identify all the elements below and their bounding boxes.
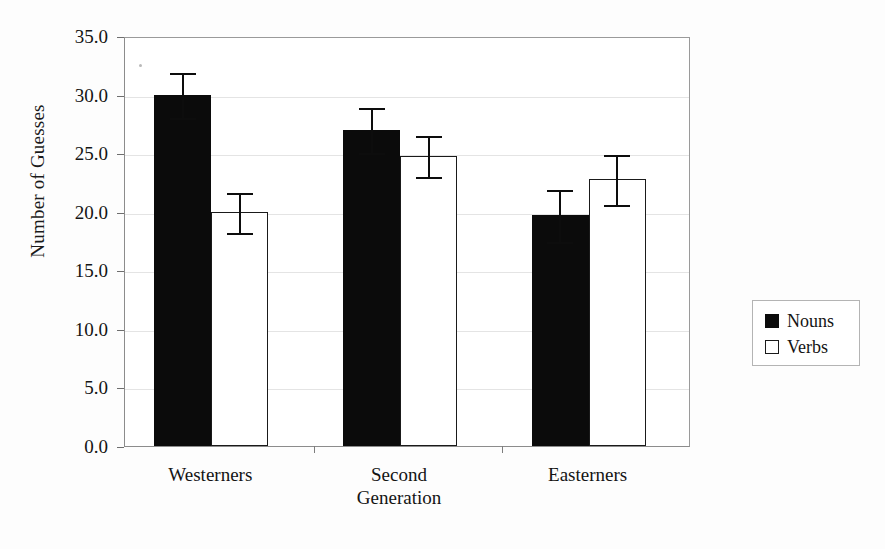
- x-axis-label-1: SecondGeneration: [299, 463, 499, 509]
- y-axis-tick-label: 10.0: [38, 319, 108, 341]
- y-axis-tick: [117, 447, 124, 448]
- y-axis-tick-label: 35.0: [38, 26, 108, 48]
- error-bar-cap-lower: [416, 177, 442, 179]
- error-bar-stem: [182, 73, 184, 120]
- error-bar-cap-lower: [227, 233, 253, 235]
- bar-verbs-1: [400, 156, 457, 447]
- error-bar-nouns-1: [343, 108, 400, 155]
- error-bar-stem: [559, 190, 561, 244]
- error-bar-cap-lower: [604, 205, 630, 207]
- y-axis-tick-label: 15.0: [38, 260, 108, 282]
- error-bar-cap-upper: [359, 108, 385, 110]
- y-axis-tick-label: 20.0: [38, 202, 108, 224]
- legend-entry-verbs: Verbs: [765, 334, 859, 360]
- y-axis-tick-label: 30.0: [38, 85, 108, 107]
- y-axis-tick-label: 25.0: [38, 143, 108, 165]
- y-axis-tick: [117, 271, 124, 272]
- legend-label-nouns: Nouns: [787, 311, 834, 332]
- y-axis-tick: [117, 154, 124, 155]
- error-bar-cap-upper: [416, 136, 442, 138]
- bar-nouns-1: [343, 130, 400, 446]
- error-bar-cap-lower: [359, 153, 385, 155]
- bar-verbs-0: [211, 212, 268, 446]
- bar-verbs-2: [589, 179, 646, 446]
- y-axis-tick: [117, 96, 124, 97]
- error-bar-stem: [428, 136, 430, 178]
- hollow-square-icon: [765, 340, 779, 354]
- error-bar-verbs-0: [211, 193, 268, 235]
- legend-label-verbs: Verbs: [787, 337, 828, 358]
- filled-square-icon: [765, 314, 779, 328]
- error-bar-stem: [371, 108, 373, 155]
- x-axis-label-0: Westerners: [110, 463, 310, 486]
- bar-nouns-2: [532, 215, 589, 446]
- legend: Nouns Verbs: [752, 300, 860, 366]
- y-axis-tick: [117, 37, 124, 38]
- error-bar-cap-upper: [547, 190, 573, 192]
- x-axis-category-separator: [502, 446, 503, 453]
- error-bar-stem: [616, 155, 618, 207]
- x-axis-label-2: Easterners: [488, 463, 688, 486]
- x-axis-label-line: Generation: [299, 486, 499, 509]
- y-axis-tick: [117, 388, 124, 389]
- y-axis-tick: [117, 330, 124, 331]
- x-axis-label-line: Westerners: [110, 463, 310, 486]
- error-bar-nouns-2: [532, 190, 589, 244]
- error-bar-nouns-0: [154, 73, 211, 120]
- y-axis-tick: [117, 213, 124, 214]
- scan-speckle: [139, 64, 142, 67]
- x-axis-label-line: Second: [299, 463, 499, 486]
- y-axis-tick-label: 0.0: [38, 436, 108, 458]
- error-bar-cap-upper: [227, 193, 253, 195]
- legend-entry-nouns: Nouns: [765, 308, 859, 334]
- error-bar-stem: [239, 193, 241, 235]
- error-bar-verbs-1: [400, 136, 457, 178]
- y-axis-tick-label: 5.0: [38, 377, 108, 399]
- error-bar-cap-upper: [170, 73, 196, 75]
- x-axis-category-separator: [314, 446, 315, 453]
- bar-nouns-0: [154, 95, 211, 446]
- plot-area: [124, 37, 690, 447]
- error-bar-cap-lower: [547, 242, 573, 244]
- x-axis-label-line: Easterners: [488, 463, 688, 486]
- error-bar-cap-upper: [604, 155, 630, 157]
- error-bar-verbs-2: [589, 155, 646, 207]
- chart-figure: Number of Guesses 0.05.010.015.020.025.0…: [0, 0, 885, 549]
- error-bar-cap-lower: [170, 118, 196, 120]
